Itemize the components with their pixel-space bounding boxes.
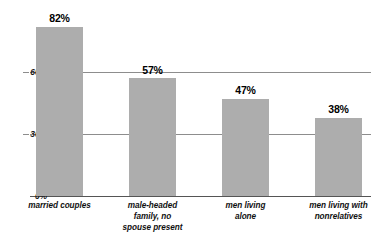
- bar-value-men-living-alone: 47%: [215, 85, 276, 96]
- category-label-line: men living with: [293, 200, 374, 211]
- category-label-line: spouse present: [107, 222, 198, 233]
- category-label-line: alone: [200, 211, 291, 222]
- category-label-male-headed-family: male-headed family, no spouse present: [107, 200, 198, 234]
- bar-men-living-with-nonrelatives[interactable]: [315, 118, 362, 197]
- bar-value-men-living-with-nonrelatives: 38%: [308, 104, 369, 115]
- bar-value-male-headed-family: 57%: [122, 65, 183, 76]
- bar-chart: 60% 30% 0% 82% 57% 47% 38% married coupl…: [0, 0, 374, 242]
- category-label-line: married couples: [14, 200, 105, 211]
- category-axis: married couples male-headed family, no s…: [0, 200, 374, 242]
- category-label-men-living-with-nonrelatives: men living with nonrelatives: [293, 200, 374, 222]
- bar-married-couples[interactable]: [36, 27, 83, 196]
- plot-area: 60% 30% 0% 82% 57% 47% 38%: [0, 0, 374, 197]
- axis-baseline-0: [30, 196, 371, 197]
- bar-men-living-alone[interactable]: [222, 99, 269, 196]
- category-label-line: men living: [200, 200, 291, 211]
- bar-value-married-couples: 82%: [29, 13, 90, 24]
- category-label-line: male-headed: [107, 200, 198, 211]
- bar-male-headed-family[interactable]: [129, 78, 176, 196]
- category-label-married-couples: married couples: [14, 200, 105, 211]
- category-label-line: nonrelatives: [293, 211, 374, 222]
- category-label-line: family, no: [107, 211, 198, 222]
- category-label-men-living-alone: men living alone: [200, 200, 291, 222]
